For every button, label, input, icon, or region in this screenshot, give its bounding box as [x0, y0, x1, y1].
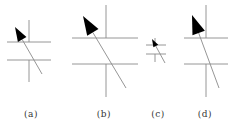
panel-a [7, 20, 51, 82]
panel-label-c: (c) [151, 109, 165, 119]
panel-b [72, 5, 138, 97]
arrowhead-icon [83, 16, 99, 36]
arrow-shaft [93, 32, 126, 88]
panel-label-a: (a) [24, 109, 38, 119]
arrow-shaft [199, 33, 219, 88]
arrowhead-icon [15, 27, 26, 42]
arrow-shaft [156, 46, 165, 63]
panel-label-d: (d) [198, 109, 212, 119]
panel-label-b: (b) [97, 109, 111, 119]
panel-c [146, 38, 166, 63]
panel-d [184, 5, 228, 97]
arrowhead-icon [192, 15, 205, 35]
arrow-shaft [22, 39, 42, 74]
